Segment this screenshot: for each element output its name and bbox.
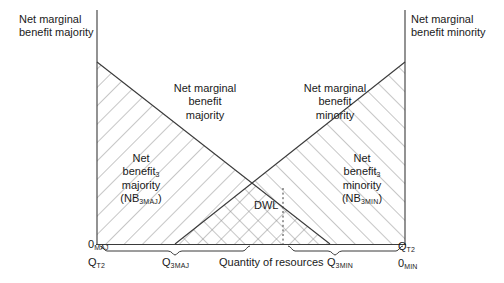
outer-label-majority: Net marginal benefit majority [19, 13, 94, 40]
origin-label-majority-sub: MAJ [94, 244, 109, 251]
q-three-label-majority-sub: 3MAJ [171, 262, 190, 269]
area-label-minority-line4: (NB3MIN) [322, 192, 402, 205]
area-label-majority-line3: majority [102, 179, 180, 192]
q-total-label-minority-base: Q [398, 240, 407, 252]
x-axis-title: Quantity of resources [219, 256, 324, 269]
q-three-label-minority-base: Q [327, 256, 336, 268]
area-label-minority-nb-open: (NB [342, 192, 361, 204]
area-label-majority-line2-base: benefit [123, 165, 156, 177]
q-total-label-majority-sub: T2 [97, 262, 106, 269]
area-label-majority-nb-close: ) [158, 192, 162, 204]
area-label-minority-nb-close: ) [378, 192, 382, 204]
area-label-minority-line2-sub: 3 [377, 171, 381, 178]
area-label-minority-line1: Net [322, 152, 402, 165]
outer-label-minority: Net marginal benefit minority [411, 13, 486, 40]
area-label-majority-line4: (NB3MAJ) [102, 192, 180, 205]
outer-label-minority-line2: benefit minority [411, 26, 486, 39]
curve-label-minority: Net marginal benefit minority [285, 82, 385, 122]
q-three-label-minority: Q3MIN [327, 256, 353, 269]
axis-braces [100, 246, 403, 255]
q-three-label-majority: Q3MAJ [162, 256, 189, 269]
curve-label-majority-line1: Net marginal [155, 82, 255, 95]
outer-label-majority-line1: Net marginal [19, 13, 94, 26]
area-label-majority-nb-open: (NB [120, 192, 139, 204]
outer-label-minority-line1: Net marginal [411, 13, 486, 26]
diagram-svg [0, 0, 504, 283]
origin-label-majority: 0MAJ [88, 238, 109, 251]
q-total-label-majority-base: Q [88, 256, 97, 268]
origin-label-minority-sub: MIN [404, 263, 417, 270]
area-label-majority: Net benefit3 majority (NB3MAJ) [102, 152, 180, 206]
q-total-label-minority-sub: T2 [407, 246, 416, 253]
origin-label-minority: 0MIN [398, 257, 418, 270]
area-label-minority-line2: benefit3 [322, 165, 402, 178]
curve-label-minority-line3: minority [285, 109, 385, 122]
curve-label-minority-line1: Net marginal [285, 82, 385, 95]
curve-label-majority-line3: majority [155, 109, 255, 122]
dwl-label: DWL [254, 199, 278, 212]
q-total-label-minority: QT2 [398, 240, 415, 253]
curve-label-minority-line2: benefit [285, 95, 385, 108]
area-label-majority-line1: Net [102, 152, 180, 165]
q-three-label-majority-base: Q [162, 256, 171, 268]
area-label-minority: Net benefit3 minority (NB3MIN) [322, 152, 402, 206]
area-label-majority-line2: benefit3 [102, 165, 180, 178]
area-label-majority-nb-sub: 3MAJ [139, 198, 158, 205]
area-label-majority-line2-sub: 3 [156, 171, 160, 178]
curve-label-majority-line2: benefit [155, 95, 255, 108]
q-total-label-majority: QT2 [88, 256, 105, 269]
area-label-minority-line2-base: benefit [344, 165, 377, 177]
diagram-canvas: Net marginal benefit majority Net margin… [0, 0, 504, 283]
curve-label-majority: Net marginal benefit majority [155, 82, 255, 122]
area-label-minority-nb-sub: 3MIN [361, 198, 379, 205]
area-label-minority-line3: minority [322, 179, 402, 192]
q-three-label-minority-sub: 3MIN [336, 262, 354, 269]
outer-label-majority-line2: benefit majority [19, 26, 94, 39]
